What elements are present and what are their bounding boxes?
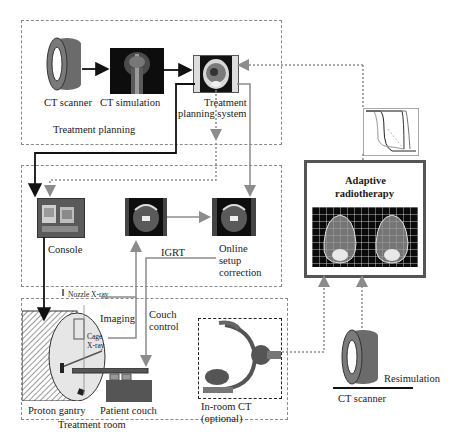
couch-control-label-line1: Couch (149, 309, 176, 321)
ct-scanner-bottom-label: CT scanner (338, 393, 386, 405)
in-room-ct-label-line2: (optional) (201, 413, 242, 425)
online-label-line2: setup (219, 255, 241, 267)
proton-gantry-label: Proton gantry (28, 405, 85, 417)
treatment-room-section-label: Treatment room (58, 419, 126, 431)
patient-couch-image (72, 368, 154, 402)
online-label-line3: correction (219, 267, 262, 279)
ct-scanner-bottom-icon (340, 328, 380, 386)
cage-xray-label-line1: Cage (87, 333, 102, 341)
tps-label-line2: planning system (178, 108, 247, 120)
patient-couch-label: Patient couch (100, 405, 157, 417)
nozzle-xray-label: Nozzle X-ray (68, 291, 109, 299)
adaptive-radiotherapy-box: Adaptive radiotherapy (304, 160, 426, 278)
online-label-line1: Online (219, 243, 248, 255)
cage-xray-label-line2: X-ray (87, 342, 105, 350)
ct-scanner-top-label: CT scanner (44, 97, 92, 109)
adaptive-label-line2: radiotherapy (335, 188, 394, 200)
in-room-ct-box (198, 318, 282, 399)
in-room-ct-label-line1: In-room CT (201, 401, 251, 413)
ct-scanner-top-icon (45, 36, 85, 92)
imaging-label: Imaging (100, 313, 135, 325)
adaptive-label-line1: Adaptive (345, 175, 386, 187)
console-label: Console (48, 244, 82, 256)
deformable-registration-image (312, 207, 418, 267)
resimulation-label: Resimulation (384, 373, 440, 385)
ct-scanner-bottom-base (333, 387, 413, 389)
dvh-chart-image (363, 108, 419, 156)
igrt-label: IGRT (161, 247, 185, 259)
treatment-planning-section-label: Treatment planning (53, 124, 135, 136)
igrt-image (125, 198, 167, 236)
ct-simulation-label: CT simulation (100, 97, 160, 109)
couch-control-label-line2: control (149, 321, 179, 333)
treatment-planning-system-image (193, 55, 239, 93)
ct-simulation-image (110, 48, 164, 94)
console-image (37, 198, 85, 238)
online-setup-correction-image (212, 198, 256, 236)
